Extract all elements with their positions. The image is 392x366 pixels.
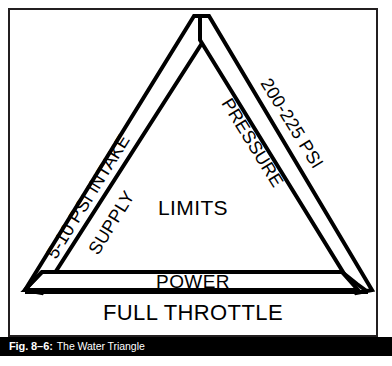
right-leg-beam <box>200 16 372 293</box>
page-bleed-text <box>40 359 290 365</box>
page-bleed-strip <box>0 356 392 366</box>
label-limits: LIMITS <box>158 196 228 219</box>
figure-caption-bar: Fig. 8–6: The Water Triangle <box>0 337 392 356</box>
caption-figure-title: The Water Triangle <box>57 341 145 352</box>
figure-container: LIMITS POWER FULL THROTTLE 5-10 PSI INTA… <box>0 0 392 366</box>
water-triangle-diagram: LIMITS POWER FULL THROTTLE 5-10 PSI INTA… <box>8 8 378 337</box>
label-power: POWER <box>156 271 230 292</box>
caption-figure-number: Fig. 8–6: <box>9 341 53 352</box>
triangle-svg: LIMITS POWER FULL THROTTLE 5-10 PSI INTA… <box>8 8 378 337</box>
label-full-throttle: FULL THROTTLE <box>103 300 283 325</box>
